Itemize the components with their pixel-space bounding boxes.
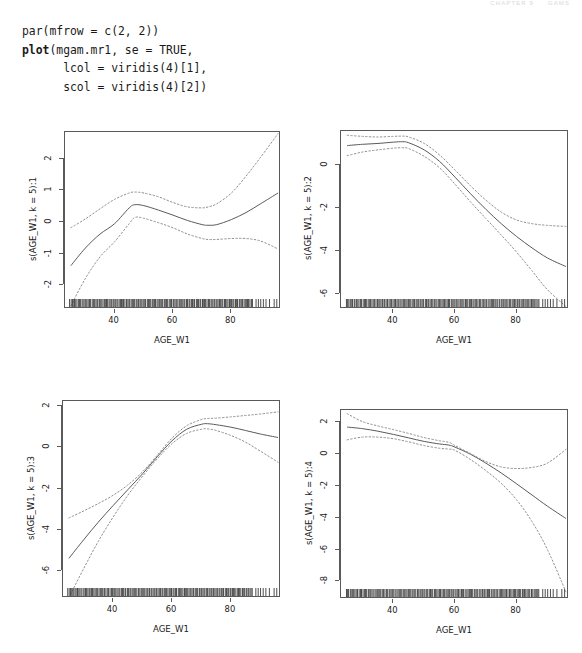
x-axis-title-1: AGE_W1 [64,335,280,345]
x-tick-label-1: 40 [101,315,127,325]
series-lower [347,148,566,307]
series-fit [347,427,566,518]
x-tick-3 [171,598,172,602]
series-fit [347,142,566,267]
y-tick-4 [335,517,339,518]
x-tick-label-2: 40 [379,315,405,325]
plot-area-4 [340,409,568,598]
x-tick-label-3: 80 [217,604,243,614]
y-tick-4 [335,485,339,486]
code-text: par(mfrow = c(2, 2)) [22,24,159,38]
curves-4 [341,410,568,598]
y-tick-label-3: -2 [41,477,51,499]
series-lower [347,437,566,592]
y-tick-3 [57,446,61,447]
rug-marks-3 [62,588,280,596]
y-tick-3 [57,488,61,489]
code-block: par(mfrow = c(2, 2))plot(mgam.mr1, se = … [22,22,207,96]
y-tick-1 [59,221,63,222]
code-line: plot(mgam.mr1, se = TRUE, [22,41,207,60]
y-tick-4 [335,580,339,581]
y-tick-label-2: -2 [319,196,329,218]
x-tick-1 [230,309,231,313]
y-tick-2 [335,250,339,251]
x-tick-1 [172,309,173,313]
running-header-chapter: CHAPTER 9 [490,0,534,6]
running-header-title: GAMS [548,0,570,6]
series-upper [347,135,566,226]
x-tick-2 [454,309,455,313]
y-tick-label-1: -2 [43,273,53,295]
y-axis-title-2: s(AGE_W1, k = 5):2 [303,129,313,307]
y-tick-3 [57,529,61,530]
y-axis-line-4 [339,421,340,580]
y-tick-label-4: -2 [319,474,329,496]
x-axis-title-3: AGE_W1 [62,624,280,634]
y-tick-2 [335,293,339,294]
series-lower [71,217,278,306]
y-tick-2 [335,207,339,208]
x-tick-2 [516,309,517,313]
rug-marks-4 [340,589,568,597]
code-line: par(mfrow = c(2, 2)) [22,22,207,41]
x-tick-label-3: 60 [158,604,184,614]
y-tick-4 [335,421,339,422]
y-tick-label-2: -4 [319,239,329,261]
y-tick-3 [57,570,61,571]
curves-2 [341,131,568,308]
x-tick-3 [230,598,231,602]
y-tick-label-2: 0 [319,153,329,175]
rug-marks-1 [64,299,280,307]
x-tick-4 [392,599,393,603]
y-tick-1 [59,189,63,190]
y-tick-label-3: 2 [41,394,51,416]
x-tick-label-4: 40 [379,605,405,615]
y-tick-2 [335,164,339,165]
plot-area-1 [64,131,280,308]
y-tick-label-4: -4 [319,506,329,528]
y-tick-label-4: -6 [319,538,329,560]
x-tick-4 [516,599,517,603]
y-tick-label-1: 1 [43,178,53,200]
curves-1 [65,132,280,308]
series-upper [69,412,278,518]
x-tick-1 [114,309,115,313]
y-tick-4 [335,549,339,550]
series-upper [347,414,566,469]
curves-3 [63,401,280,597]
plot-area-3 [62,400,280,597]
y-tick-1 [59,284,63,285]
y-axis-line-2 [339,164,340,293]
x-tick-label-2: 80 [503,315,529,325]
y-axis-title-3: s(AGE_W1, k = 5):3 [25,399,35,596]
rug-marks-2 [340,299,568,307]
code-text: scol = viridis(4)[2]) [22,80,207,94]
x-tick-label-4: 60 [441,605,467,615]
y-tick-4 [335,453,339,454]
x-axis-title-2: AGE_W1 [340,335,568,345]
code-line: lcol = viridis(4)[1], [22,59,207,78]
y-tick-label-4: 2 [319,410,329,432]
y-tick-label-3: 0 [41,435,51,457]
y-tick-label-4: -8 [319,569,329,591]
y-tick-label-1: 0 [43,210,53,232]
x-axis-title-4: AGE_W1 [340,625,568,635]
plot-area-2 [340,130,568,308]
y-axis-title-1: s(AGE_W1, k = 5):1 [27,130,37,307]
x-tick-2 [392,309,393,313]
series-lower [69,429,278,597]
y-tick-3 [57,405,61,406]
y-tick-label-1: -1 [43,242,53,264]
x-tick-label-1: 80 [217,315,243,325]
x-tick-label-1: 60 [159,315,185,325]
y-tick-label-3: -4 [41,518,51,540]
y-tick-label-3: -6 [41,559,51,581]
code-line: scol = viridis(4)[2]) [22,78,207,97]
y-tick-1 [59,253,63,254]
code-text: lcol = viridis(4)[1], [22,61,207,75]
x-tick-label-3: 40 [99,604,125,614]
running-header: CHAPTER 9GAMS [490,0,570,6]
code-keyword: plot [22,43,49,57]
y-tick-label-2: -6 [319,282,329,304]
x-tick-label-4: 80 [503,605,529,615]
